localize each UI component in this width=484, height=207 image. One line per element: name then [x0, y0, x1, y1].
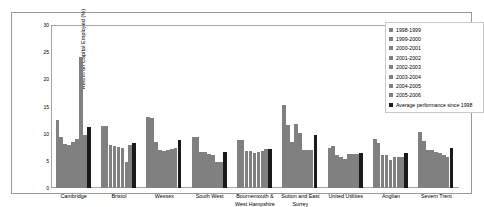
legend-label: 1998-1999	[396, 27, 421, 33]
legend-label: 1999-2000	[396, 36, 421, 42]
legend-swatch-icon	[389, 46, 393, 50]
legend-item: 2001-2002	[389, 53, 481, 62]
legend-swatch-icon	[389, 56, 393, 60]
bar	[314, 135, 318, 188]
legend-item: 2005-2006	[389, 91, 481, 100]
category-label: Anglian	[366, 193, 415, 201]
legend-swatch-icon	[389, 75, 393, 79]
bar	[359, 153, 363, 188]
legend-label: 2005-2006	[396, 92, 421, 98]
legend-swatch-icon	[389, 28, 393, 32]
legend-item: 2000-2001	[389, 44, 481, 53]
category-label: Severn Trent	[412, 193, 461, 201]
legend-label: 2003-2004	[396, 74, 421, 80]
category-label: Wessex	[140, 193, 189, 201]
category-label: South West	[185, 193, 234, 201]
y-tick-label: 0	[46, 185, 49, 191]
bar	[268, 149, 272, 188]
legend-swatch-icon	[389, 93, 393, 97]
y-tick-label: 30	[43, 22, 49, 28]
legend-swatch-icon	[389, 84, 393, 88]
y-tick-label: 10	[43, 131, 49, 137]
chart-legend: 1998-19991999-20002000-20012001-20022002…	[385, 22, 484, 113]
legend-label: 2000-2001	[396, 45, 421, 51]
legend-swatch-icon	[389, 37, 393, 41]
legend-item: 1999-2000	[389, 34, 481, 43]
legend-item: 2004-2005	[389, 81, 481, 90]
legend-label: 2004-2005	[396, 83, 421, 89]
y-tick-label: 25	[43, 49, 49, 55]
category-label: Bristol	[94, 193, 143, 201]
bar	[87, 127, 91, 188]
bar	[132, 143, 136, 188]
legend-label: 2001-2002	[396, 55, 421, 61]
bar	[450, 148, 454, 188]
legend-swatch-icon	[389, 103, 393, 107]
chart-frame: Return on Capital Employed (%) 051015202…	[11, 12, 472, 194]
legend-item: 2002-2003	[389, 63, 481, 72]
category-label: Cambridge	[49, 193, 98, 201]
legend-label: 2002-2003	[396, 64, 421, 70]
y-tick-label: 20	[43, 76, 49, 82]
category-label: Bournemouth & West Hampshire	[230, 193, 279, 205]
y-tick-label: 15	[43, 104, 49, 110]
legend-item: 2003-2004	[389, 72, 481, 81]
category-label: United Utilities	[321, 193, 370, 201]
legend-item: 1998-1999	[389, 25, 481, 34]
legend-swatch-icon	[389, 65, 393, 69]
category-label: Sutton and East Surrey	[276, 193, 325, 205]
bar	[178, 140, 182, 188]
y-tick-label: 5	[46, 158, 49, 164]
legend-label: Average performance since 1998	[396, 102, 472, 108]
bar	[404, 153, 408, 188]
bar	[223, 152, 227, 188]
legend-item: Average performance since 1998	[389, 100, 481, 109]
